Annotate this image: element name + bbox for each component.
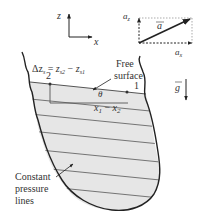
gravity-vector: g <box>175 79 186 100</box>
point-2-marker <box>49 83 52 86</box>
svg-text:Free: Free <box>116 58 134 69</box>
angle-label: θ <box>98 89 103 99</box>
svg-text:pressure: pressure <box>15 183 49 194</box>
svg-text:lines: lines <box>15 195 34 206</box>
fluid-acceleration-diagram: z x a az ax g <box>0 0 203 217</box>
point-1-marker <box>126 91 129 94</box>
ax-label: ax <box>175 47 183 58</box>
coordinate-axes: z x <box>56 10 99 47</box>
point-1-label: 1 <box>134 80 139 91</box>
z-axis-label: z <box>56 10 61 21</box>
acceleration-vector: a az ax <box>123 11 192 58</box>
az-label: az <box>123 11 131 22</box>
svg-text:surface: surface <box>114 70 143 81</box>
acceleration-vector-label: a <box>157 20 162 31</box>
gravity-label: g <box>175 82 180 93</box>
svg-text:Constant: Constant <box>15 171 51 182</box>
height-difference-equation: Δzs = zs2 − zs1 <box>32 63 85 75</box>
x-axis-label: x <box>93 36 99 47</box>
